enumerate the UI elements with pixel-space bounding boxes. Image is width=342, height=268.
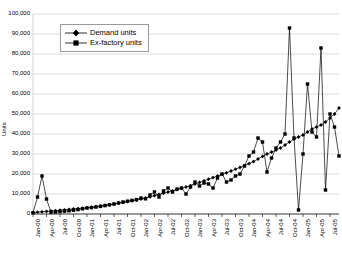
x-axis-tick-label: Jul-01: [116, 219, 122, 245]
y-axis-tick-label: 20,000: [0, 170, 30, 176]
x-axis-tick-label: Apr-03: [211, 219, 217, 245]
legend-marker-square-icon: [65, 38, 87, 48]
x-axis-tick-label: Oct-02: [184, 219, 190, 245]
x-axis-tick-label: Jan-00: [35, 219, 41, 245]
x-axis-tick-label: Oct-04: [292, 219, 298, 245]
y-axis-tick-label: 40,000: [0, 130, 30, 136]
legend-label-exfactory: Ex-factory units: [90, 38, 142, 48]
chart-container: Units Demand units Ex-factory units 010,…: [0, 0, 342, 268]
y-axis-tick-label: 90,000: [0, 30, 30, 36]
x-axis-tick-label: Apr-02: [157, 219, 163, 245]
y-axis-tick-label: 100,000: [0, 10, 30, 16]
x-axis-tick-label: Jul-03: [224, 219, 230, 245]
x-axis-tick-label: Jan-03: [197, 219, 203, 245]
legend-label-demand: Demand units: [90, 28, 136, 38]
legend-marker-diamond-icon: [65, 28, 87, 38]
legend-item-demand: Demand units: [65, 28, 142, 38]
x-axis-tick-label: Jan-02: [143, 219, 149, 245]
x-axis-tick-label: Jul-00: [62, 219, 68, 245]
x-axis-tick-label: Oct-03: [238, 219, 244, 245]
x-axis-tick-label: Jan-04: [251, 219, 257, 245]
y-axis-tick-label: 70,000: [0, 70, 30, 76]
x-axis-tick-label: Jan-05: [305, 219, 311, 245]
x-axis-tick-label: Jan-01: [89, 219, 95, 245]
y-axis-tick-label: 60,000: [0, 90, 30, 96]
x-axis-tick-label: Oct-00: [76, 219, 82, 245]
chart-legend: Demand units Ex-factory units: [60, 24, 149, 52]
y-axis-tick-label: 0: [0, 210, 30, 216]
y-axis-tick-label: 10,000: [0, 190, 30, 196]
x-axis-tick-label: Apr-04: [265, 219, 271, 245]
x-axis-tick-label: Apr-05: [319, 219, 325, 245]
x-axis-tick-label: Jul-04: [278, 219, 284, 245]
legend-item-exfactory: Ex-factory units: [65, 38, 142, 48]
x-axis-tick-label: Oct-01: [130, 219, 136, 245]
y-axis-tick-label: 30,000: [0, 150, 30, 156]
x-axis-tick-label: Jul-02: [170, 219, 176, 245]
x-axis-tick-label: Apr-00: [49, 219, 55, 245]
y-axis-tick-label: 80,000: [0, 50, 30, 56]
y-axis-tick-label: 50,000: [0, 110, 30, 116]
x-axis-tick-label: Jul-05: [332, 219, 338, 245]
x-axis-tick-label: Apr-01: [103, 219, 109, 245]
